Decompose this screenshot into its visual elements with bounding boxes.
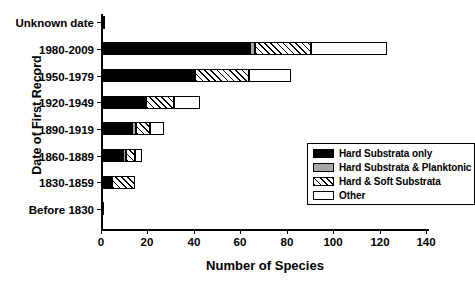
y-tick-mark-3 xyxy=(97,102,101,103)
legend-swatch-other xyxy=(313,191,334,200)
y-tick-mark-7 xyxy=(97,209,101,210)
segment-other xyxy=(150,122,164,135)
legend-swatch-hard-substrata-only xyxy=(313,149,334,158)
segment-hard-substrata-only xyxy=(102,96,146,109)
segment-hard-substrata-only xyxy=(102,122,132,135)
x-tick-label-120: 120 xyxy=(360,236,400,248)
y-tick-mark-6 xyxy=(97,182,101,183)
y-tick-mark-0 xyxy=(97,22,101,23)
bar-unknown-date xyxy=(102,16,105,29)
legend-label-hard-soft-substrata: Hard & Soft Substrata xyxy=(339,176,441,187)
y-axis-tick-labels: Unknown date 1980-2009 1950-1979 1920-19… xyxy=(0,14,98,229)
x-tick-label-80: 80 xyxy=(267,236,307,248)
y-tick-label-6: 1830-1859 xyxy=(39,177,94,189)
bar-1980-2009 xyxy=(102,42,387,55)
x-tick-mark-80 xyxy=(287,229,288,234)
y-tick-label-3: 1920-1949 xyxy=(39,97,94,109)
y-tick-mark-4 xyxy=(97,129,101,130)
segment-hard-substrata-only xyxy=(102,176,112,189)
bar-before-1830 xyxy=(102,202,104,215)
x-axis-title: Number of Species xyxy=(100,258,430,273)
segment-hard-soft-substrata xyxy=(255,42,311,55)
segment-hard-soft-substrata xyxy=(112,176,135,189)
chart-legend: Hard Substrata only Hard Substrata & Pla… xyxy=(307,143,475,205)
segment-hard-soft-substrata xyxy=(195,69,249,82)
segment-hard-substrata-only xyxy=(102,69,195,82)
segment-other xyxy=(135,149,142,162)
segment-other xyxy=(174,96,200,109)
x-tick-mark-120 xyxy=(380,229,381,234)
segment-hard-substrata-only xyxy=(102,42,250,55)
x-tick-mark-0 xyxy=(101,229,102,234)
legend-swatch-hard-substrata-planktonic xyxy=(313,163,334,172)
segment-hard-substrata-only xyxy=(102,149,123,162)
bar-1830-1859 xyxy=(102,176,135,189)
segment-hard-soft-substrata xyxy=(136,122,150,135)
x-tick-mark-140 xyxy=(426,229,427,234)
legend-swatch-hard-soft-substrata xyxy=(313,177,334,186)
legend-label-hard-substrata-only: Hard Substrata only xyxy=(339,148,432,159)
bar-1890-1919 xyxy=(102,122,164,135)
y-tick-label-1: 1980-2009 xyxy=(39,44,94,56)
x-tick-mark-40 xyxy=(194,229,195,234)
x-tick-label-0: 0 xyxy=(81,236,121,248)
segment-hard-soft-substrata xyxy=(126,149,135,162)
segment-hard-substrata-only xyxy=(102,16,105,29)
legend-item-hard-substrata-only: Hard Substrata only xyxy=(313,147,470,160)
y-tick-mark-2 xyxy=(97,76,101,77)
plot-area: 0 20 40 60 80 100 120 140 Hard Substrata… xyxy=(101,14,429,229)
x-tick-label-40: 40 xyxy=(174,236,214,248)
x-tick-mark-20 xyxy=(147,229,148,234)
x-tick-label-20: 20 xyxy=(127,236,167,248)
x-tick-mark-60 xyxy=(240,229,241,234)
segment-other xyxy=(311,42,387,55)
y-tick-label-2: 1950-1979 xyxy=(39,71,94,83)
segment-other xyxy=(249,69,291,82)
x-tick-label-60: 60 xyxy=(220,236,260,248)
y-tick-mark-1 xyxy=(97,49,101,50)
bar-1860-1889 xyxy=(102,149,142,162)
y-tick-label-5: 1860-1889 xyxy=(39,151,94,163)
legend-label-hard-substrata-planktonic: Hard Substrata & Planktonic xyxy=(339,162,471,173)
legend-item-other: Other xyxy=(313,189,470,202)
legend-label-other: Other xyxy=(339,190,365,201)
y-tick-label-0: Unknown date xyxy=(15,17,94,29)
bar-1950-1979 xyxy=(102,69,291,82)
legend-item-hard-substrata-planktonic: Hard Substrata & Planktonic xyxy=(313,161,470,174)
y-tick-label-4: 1890-1919 xyxy=(39,124,94,136)
segment-hard-soft-substrata xyxy=(146,96,174,109)
x-tick-mark-100 xyxy=(333,229,334,234)
bar-1920-1949 xyxy=(102,96,200,109)
legend-item-hard-soft-substrata: Hard & Soft Substrata xyxy=(313,175,470,188)
x-tick-label-100: 100 xyxy=(313,236,353,248)
y-tick-mark-5 xyxy=(97,156,101,157)
segment-hard-substrata-only xyxy=(102,202,104,215)
y-tick-label-7: Before 1830 xyxy=(29,204,94,216)
x-tick-label-140: 140 xyxy=(406,236,446,248)
